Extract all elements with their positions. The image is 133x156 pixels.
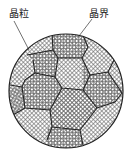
boundary-leader-line (79, 19, 92, 36)
grains (0, 0, 133, 156)
grain-leader-line (14, 21, 29, 50)
grain-structure-diagram (0, 0, 133, 156)
